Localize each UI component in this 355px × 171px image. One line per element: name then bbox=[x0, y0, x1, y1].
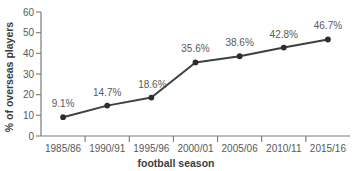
y-tick-label-10: 10 bbox=[23, 110, 35, 121]
chart-container: % of overseas players 60 50 40 30 20 10 … bbox=[0, 0, 355, 171]
x-tick-label-2005-06: 2005/06 bbox=[222, 143, 259, 154]
x-axis-title: football season bbox=[137, 157, 214, 169]
y-tick-label-20: 20 bbox=[23, 89, 35, 100]
data-label-1995-96: 18.6% bbox=[138, 79, 166, 90]
x-tick-label-2000-01: 2000/01 bbox=[177, 143, 214, 154]
data-point-2015-16 bbox=[325, 37, 331, 43]
y-tick-label-30: 30 bbox=[23, 69, 35, 80]
line-chart: % of overseas players 60 50 40 30 20 10 … bbox=[0, 0, 355, 171]
y-axis-ticks bbox=[36, 12, 41, 136]
x-tick-label-1990-91: 1990/91 bbox=[89, 143, 126, 154]
y-tick-label-60: 60 bbox=[23, 7, 35, 18]
y-tick-label-0: 0 bbox=[28, 131, 34, 142]
data-label-1990-91: 14.7% bbox=[93, 87, 121, 98]
y-tick-label-40: 40 bbox=[23, 48, 35, 59]
x-tick-label-2010-11: 2010/11 bbox=[266, 143, 302, 154]
data-point-2000-01 bbox=[193, 60, 199, 66]
data-point-2005-06 bbox=[237, 53, 243, 59]
data-label-1985-86: 9.1% bbox=[52, 98, 75, 109]
data-label-2005-06: 38.6% bbox=[225, 37, 253, 48]
y-axis-title: % of overseas players bbox=[3, 22, 15, 132]
x-tick-label-1985-86: 1985/86 bbox=[45, 143, 82, 154]
data-label-2015-16: 46.7% bbox=[314, 20, 342, 31]
x-axis-ticks bbox=[85, 136, 306, 142]
data-label-2000-01: 35.6% bbox=[181, 43, 209, 54]
x-tick-label-1995-96: 1995/96 bbox=[133, 143, 170, 154]
data-point-1990-91 bbox=[104, 103, 110, 109]
data-point-2010-11 bbox=[281, 45, 287, 51]
x-tick-label-2015-16: 2015/16 bbox=[310, 143, 347, 154]
data-label-2010-11: 42.8% bbox=[270, 29, 298, 40]
y-tick-label-50: 50 bbox=[23, 27, 35, 38]
data-point-1985-86 bbox=[60, 114, 66, 120]
data-point-1995-96 bbox=[148, 95, 154, 101]
